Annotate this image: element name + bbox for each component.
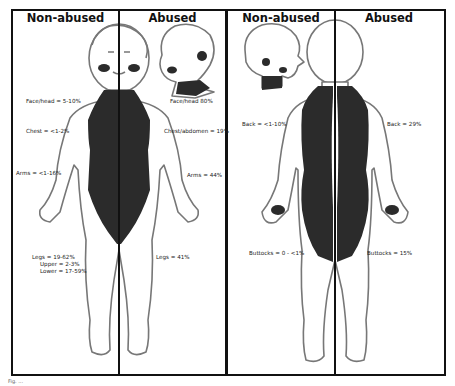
label-legs-lower-non-abused: Lower = 17-59% [40,268,87,274]
back-non-abused-header: Non-abused [228,11,334,25]
front-abused-header: Abused [120,11,225,25]
label-buttocks-non-abused: Buttocks = 0 - <1% [249,250,304,256]
label-arms-non-abused: Arms = <1-16% [16,170,61,176]
front-non-abused-header: Non-abused [13,11,118,25]
label-back-non-abused: Back = <1-10% [242,121,287,127]
label-back-abused: Back = 29% [387,121,421,127]
label-legs-abused: Legs = 41% [156,254,190,260]
figure-caption: Fig. ... [8,378,23,384]
front-divider [118,9,120,374]
label-chest-abdomen-abused: Chest/abdomen = 19% [164,128,229,134]
label-face-head-non-abused: Face/head = 5-10% [26,98,81,104]
diagram-frame [11,9,446,376]
label-arms-abused: Arms = 44% [187,172,222,178]
label-legs-non-abused: Legs = 19-62% [32,254,75,260]
label-chest-non-abused: Chest = <1-2% [26,128,69,134]
back-divider [334,9,336,374]
center-divider [225,9,228,374]
label-buttocks-abused: Buttocks = 15% [367,250,412,256]
back-abused-header: Abused [336,11,442,25]
label-face-head-abused: Face/head 80% [170,98,213,104]
label-legs-upper-non-abused: Upper = 2-3% [40,261,80,267]
